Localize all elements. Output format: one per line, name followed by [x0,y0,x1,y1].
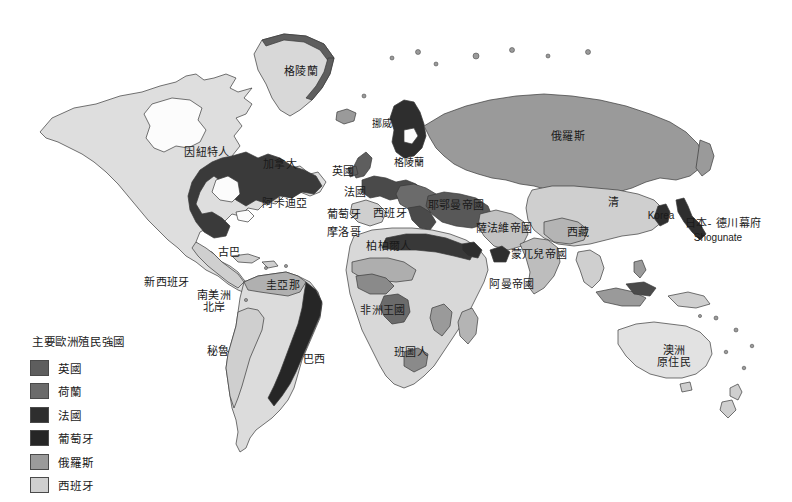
region-iberia [350,200,386,226]
legend-swatch-russia [30,454,49,470]
region-russia [424,94,704,196]
region-qing-empire [526,186,664,246]
landmass-australia [618,322,712,378]
landmass-iceland [336,109,356,124]
world-map: 格陵蘭 因紐特人 加拿大 阿卡迪亞 古巴 新西班牙 圭亞那 南美洲 北岸 秘魯 … [0,0,792,502]
legend-item-spain: 西班牙 [30,476,180,495]
region-philippines [634,260,646,278]
legend-label-britain: 英國 [58,360,82,376]
legend-label-russia: 俄羅斯 [58,454,93,470]
legend-label-netherlands: 荷蘭 [58,383,82,399]
legend: 主要歐洲殖民強國 英國 荷蘭 法國 葡萄牙 俄羅斯 西班牙 [30,333,180,499]
legend-label-portugal: 葡萄牙 [58,430,93,446]
legend-swatch-spain [30,477,49,493]
legend-label-france: 法國 [58,407,82,423]
legend-swatch-britain [30,360,49,376]
legend-item-russia: 俄羅斯 [30,452,180,471]
island-hispaniola [262,261,278,268]
legend-swatch-france [30,407,49,423]
region-unclaimed-interior [144,98,206,152]
legend-swatch-netherlands [30,383,49,399]
legend-title: 主要歐洲殖民強國 [32,333,180,349]
region-southeast-asia [576,250,604,288]
region-japan [676,198,706,240]
legend-item-netherlands: 荷蘭 [30,382,180,401]
legend-label-spain: 西班牙 [58,477,93,493]
region-new-guinea [668,292,710,308]
legend-swatch-portugal [30,430,49,446]
island-cuba [232,254,260,263]
region-great-lakes [236,210,254,222]
legend-item-britain: 英國 [30,358,180,377]
region-mughal-empire [520,238,560,294]
landmass-new-zealand-south [720,400,736,418]
legend-item-france: 法國 [30,405,180,424]
island-tasmania [680,382,692,392]
legend-item-portugal: 葡萄牙 [30,429,180,448]
landmass-new-zealand-north [730,384,742,400]
